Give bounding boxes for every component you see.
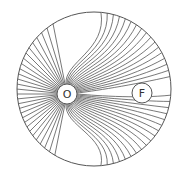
field-line bbox=[72, 25, 137, 85]
node-o: O bbox=[57, 84, 77, 104]
field-line bbox=[77, 96, 169, 108]
node-o-label: O bbox=[63, 88, 72, 101]
field-line bbox=[77, 64, 167, 91]
field-line bbox=[40, 103, 62, 144]
field-line bbox=[71, 22, 131, 85]
field-line bbox=[21, 98, 58, 113]
node-f-label: F bbox=[139, 87, 145, 100]
node-f: F bbox=[132, 83, 152, 103]
field-line bbox=[75, 42, 155, 88]
field-line bbox=[70, 19, 125, 85]
field-line-diagram: O F bbox=[0, 0, 180, 182]
